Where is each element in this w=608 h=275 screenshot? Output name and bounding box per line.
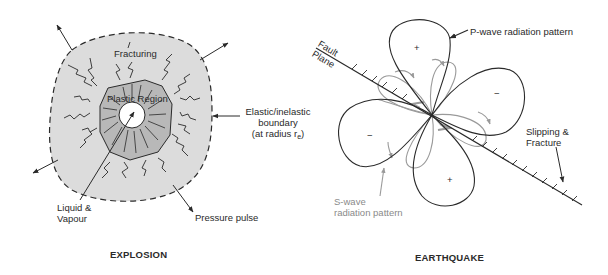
p-wave-pointer	[450, 30, 468, 38]
boundary-label-line3: (at radius re)	[238, 128, 318, 142]
pressure-pulse-label: Pressure pulse	[195, 212, 258, 223]
arrow-bottom-right	[173, 185, 193, 212]
lobe-sign-top: +	[414, 42, 420, 53]
fracturing-label: Fracturing	[114, 48, 157, 59]
liquid-vapour-label: Liquid & Vapour	[57, 202, 91, 224]
slipping-fracture-label: Slipping & Fracture	[526, 126, 569, 148]
arrow-top-right	[200, 43, 228, 60]
s-wave-pattern	[378, 59, 490, 196]
boundary-label-line1: Elastic/inelastic	[238, 106, 318, 117]
earthquake-title: EARTHQUAKE	[415, 252, 484, 263]
plastic-region-label: Plastic Region	[107, 93, 168, 104]
lobe-sign-bottom: +	[447, 174, 453, 185]
slipping-pointer	[556, 147, 563, 182]
s-wave-label: S-wave radiation pattern	[334, 196, 403, 218]
boundary-label-line2: boundary	[238, 117, 318, 128]
explosion-title: EXPLOSION	[110, 249, 167, 260]
lobe-sign-left: −	[367, 130, 373, 141]
p-wave-label: P-wave radiation pattern	[470, 26, 573, 37]
s-wave-pointer	[380, 168, 384, 196]
lobe-sign-right: −	[494, 88, 500, 99]
boundary-label: Elastic/inelastic boundary (at radius re…	[238, 106, 318, 142]
arrow-top-left	[57, 25, 72, 50]
